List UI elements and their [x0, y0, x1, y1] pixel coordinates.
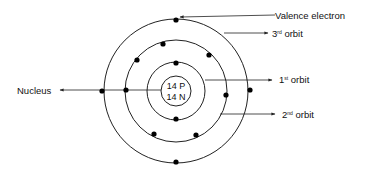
electron	[99, 88, 104, 93]
first-orbit-label: 1st orbit	[279, 74, 310, 85]
electron	[173, 116, 178, 121]
electron	[173, 60, 178, 65]
electron	[223, 92, 228, 97]
electron	[134, 57, 139, 62]
electron	[151, 131, 156, 136]
valence-electron	[173, 17, 178, 22]
electron	[193, 132, 198, 137]
nucleus-label: Nucleus	[17, 85, 52, 96]
electron	[247, 87, 252, 92]
neutrons-label: 14 N	[166, 92, 185, 102]
protons-label: 14 P	[167, 81, 186, 91]
atom-diagram: 14 P 14 N Valence electron 3rd orbit 1st…	[0, 0, 369, 173]
electron	[160, 41, 165, 46]
valence-electron-label: Valence electron	[275, 10, 345, 21]
electron	[206, 52, 211, 57]
electron	[173, 159, 178, 164]
second-orbit-label: 2nd orbit	[282, 109, 314, 120]
electron	[123, 87, 128, 92]
third-orbit-label: 3rd orbit	[272, 28, 303, 39]
valence-electron-pointer	[180, 15, 275, 17]
